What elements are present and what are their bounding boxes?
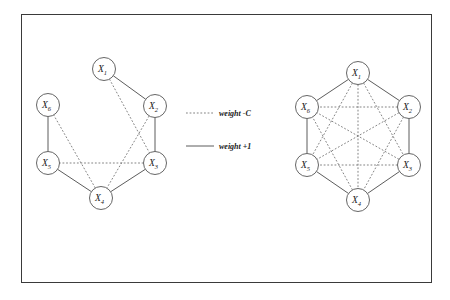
edge-X1-X5 <box>313 83 353 155</box>
irregular-graph-edges <box>48 76 155 192</box>
edges-layer <box>48 76 409 194</box>
graph-figure-canvas: X1X2X3X4X5X6X1X2X3X4X5X6 weight -Cweight… <box>0 0 450 300</box>
legend-label-solid: weight +1 <box>219 142 251 151</box>
nodes-layer: X1X2X3X4X5X6X1X2X3X4X5X6 <box>37 58 421 212</box>
legend-item-solid: weight +1 <box>186 142 251 151</box>
edge-X2-X4 <box>107 116 149 188</box>
complete-hexagon-graph-edges <box>307 79 409 193</box>
node-X1[interactable]: X1 <box>347 62 370 85</box>
edge-X4-X6 <box>313 117 353 190</box>
legend-label-dashed: weight -C <box>219 109 251 118</box>
figure-page: X1X2X3X4X5X6X1X2X3X4X5X6 weight -Cweight… <box>0 0 450 300</box>
node-X2[interactable]: X2 <box>398 96 421 119</box>
edge-X2-X4 <box>364 117 404 190</box>
edge-X1-X3 <box>364 83 404 155</box>
node-X2[interactable]: X2 <box>144 95 167 118</box>
node-X4[interactable]: X4 <box>347 189 370 212</box>
edge-X4-X5 <box>58 169 92 191</box>
node-X3[interactable]: X3 <box>398 154 421 177</box>
node-X3[interactable]: X3 <box>144 152 167 175</box>
node-X6[interactable]: X6 <box>37 94 60 117</box>
node-X4[interactable]: X4 <box>90 187 113 210</box>
edge-X1-X3 <box>109 79 149 153</box>
node-X6[interactable]: X6 <box>296 96 319 119</box>
edge-X4-X6 <box>54 115 96 188</box>
irregular-graph-nodes: X1X2X3X4X5X6 <box>37 58 167 210</box>
node-X5[interactable]: X5 <box>37 152 60 175</box>
legend-item-dashed: weight -C <box>186 109 251 118</box>
edge-X1-X2 <box>368 79 400 100</box>
node-X1[interactable]: X1 <box>93 58 116 81</box>
edge-X6-X1 <box>317 79 349 100</box>
node-X5[interactable]: X5 <box>296 154 319 177</box>
legend: weight -Cweight +1 <box>186 109 251 151</box>
edge-X4-X5 <box>316 172 348 194</box>
